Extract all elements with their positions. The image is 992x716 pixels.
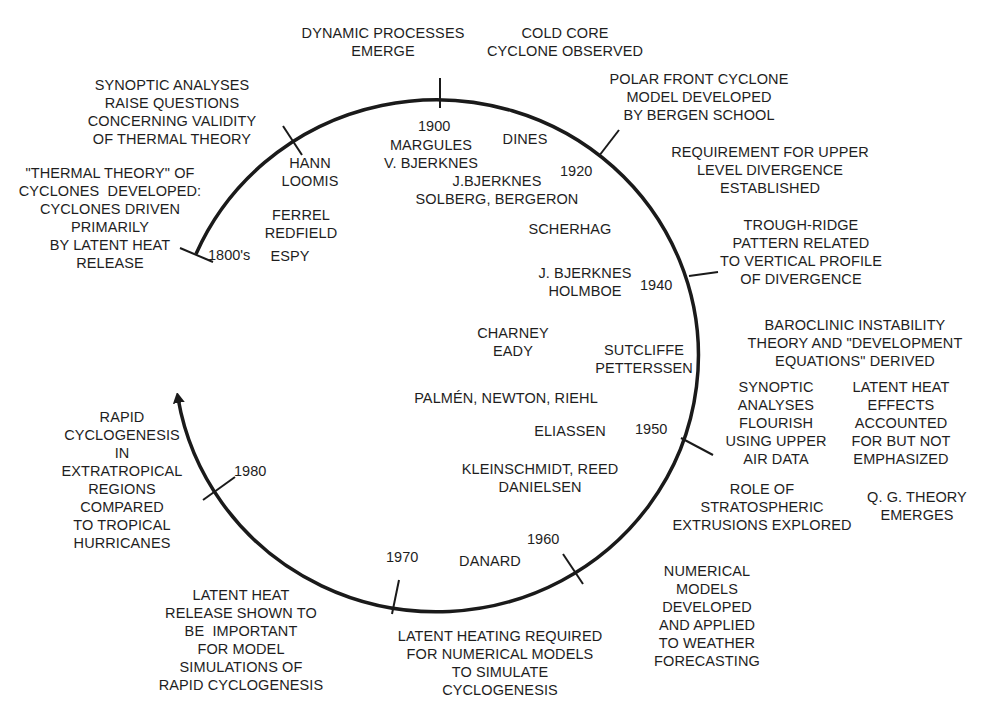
scientist-danard: DANARD <box>459 552 521 570</box>
development-latent-heat-effects: LATENT HEAT EFFECTS ACCOUNTED FOR BUT NO… <box>851 378 950 468</box>
development-synoptic-flourish: SYNOPTIC ANALYSES FLOURISH USING UPPER A… <box>725 378 826 468</box>
year-label-1960: 1960 <box>527 530 559 548</box>
development-qg-theory: Q. G. THEORY EMERGES <box>867 488 967 524</box>
development-cold-core: COLD CORE CYCLONE OBSERVED <box>487 24 643 60</box>
development-synoptic-questions: SYNOPTIC ANALYSES RAISE QUESTIONS CONCER… <box>88 76 256 148</box>
development-rapid-cyclogenesis: RAPID CYCLOGENESIS IN EXTRATROPICAL REGI… <box>61 408 182 552</box>
development-thermal-theory: "THERMAL THEORY" OF CYCLONES DEVELOPED: … <box>19 164 202 272</box>
scientist-jbjerknes-solberg-bergeron: J.BJERKNES SOLBERG, BERGERON <box>416 172 579 208</box>
year-label-1900: 1900 <box>418 117 450 135</box>
year-label-1970: 1970 <box>386 548 418 566</box>
scientist-kleinschmidt-reed-danielsen: KLEINSCHMIDT, REED DANIELSEN <box>462 460 619 496</box>
development-latent-heating-required: LATENT HEATING REQUIRED FOR NUMERICAL MO… <box>398 627 603 699</box>
scientist-eliassen: ELIASSEN <box>534 422 606 440</box>
development-dynamic-processes: DYNAMIC PROCESSES EMERGE <box>302 24 465 60</box>
scientist-palmen-newton-riehl: PALMÉN, NEWTON, RIEHL <box>414 389 598 407</box>
year-label-1940: 1940 <box>640 276 672 294</box>
development-stratospheric: ROLE OF STRATOSPHERIC EXTRUSIONS EXPLORE… <box>672 480 851 534</box>
scientist-scherhag: SCHERHAG <box>529 220 612 238</box>
year-label-1980: 1980 <box>234 462 266 480</box>
scientist-margules-vbjerknes: MARGULES V. BJERKNES <box>384 136 478 172</box>
scientist-jbjerknes-holmboe: J. BJERKNES HOLMBOE <box>539 264 632 300</box>
development-baroclinic: BAROCLINIC INSTABILITY THEORY AND "DEVEL… <box>748 316 963 370</box>
year-label-1800s: 1800's <box>208 246 250 264</box>
tick-1950 <box>681 438 713 455</box>
development-trough-ridge: TROUGH-RIDGE PATTERN RELATED TO VERTICAL… <box>720 216 882 288</box>
scientist-dines: DINES <box>503 130 548 148</box>
development-polar-front: POLAR FRONT CYCLONE MODEL DEVELOPED BY B… <box>610 70 789 124</box>
scientist-ferrel-redfield: FERREL REDFIELD <box>265 206 338 242</box>
tick-1940 <box>689 272 718 276</box>
scientist-charney-eady: CHARNEY EADY <box>477 324 549 360</box>
development-numerical-models: NUMERICAL MODELS DEVELOPED AND APPLIED T… <box>654 562 760 670</box>
tick-1920 <box>599 130 619 156</box>
year-label-1950: 1950 <box>635 420 667 438</box>
scientist-sutcliffe-petterssen: SUTCLIFFE PETTERSSEN <box>595 341 693 377</box>
scientist-hann-loomis: HANN LOOMIS <box>282 154 339 190</box>
development-latent-heat-release: LATENT HEAT RELEASE SHOWN TO BE IMPORTAN… <box>159 586 324 694</box>
scientist-espy: ESPY <box>270 247 309 265</box>
tick-hann <box>283 126 302 155</box>
development-upper-divergence: REQUIREMENT FOR UPPER LEVEL DIVERGENCE E… <box>671 143 869 197</box>
circular-timeline-diagram: 1800's 1900 1920 1940 1950 1960 1970 198… <box>0 0 992 716</box>
